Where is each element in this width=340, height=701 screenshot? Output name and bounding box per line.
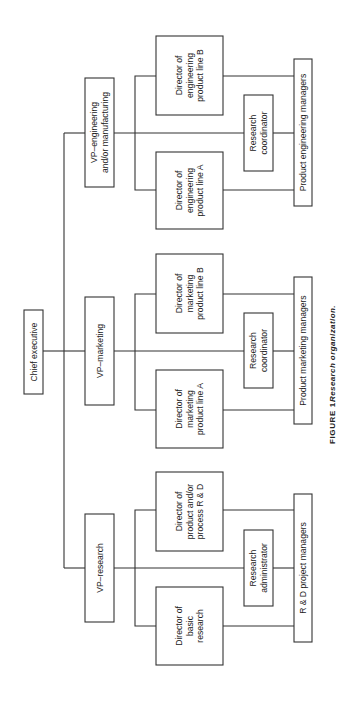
org-chart: Chief executive VP–engineeringand/or man… (0, 0, 340, 701)
managers-label-line: Product marketing managers (298, 295, 308, 405)
managers-box: Product marketing managers (294, 277, 312, 424)
vp-engineering-box: VP–engineeringand/or manufacturing (85, 78, 114, 187)
vp-marketing-box: VP–marketing (85, 297, 114, 405)
director-bottom-label-line: research (195, 609, 205, 643)
director-bottom-label-line: marketing (185, 390, 195, 428)
group-engineering: VP–engineeringand/or manufacturingDirect… (64, 36, 312, 229)
research-staff-box: Researchadministrator (244, 530, 273, 606)
director-bottom-label-line: basic (185, 615, 195, 636)
director-top-label-line: Director of (174, 273, 184, 313)
vp-research-box: VP–research (85, 514, 114, 622)
group-research: VP–researchDirector ofproduct and/orproc… (64, 472, 312, 665)
figure-title: Research organization. (328, 305, 337, 402)
research-staff-box: Researchcoordinator (244, 313, 273, 388)
director-top-box: Director ofproduct and/orprocess R & D (156, 472, 223, 551)
director-top-label-line: product line B (195, 49, 205, 102)
research-staff-label-line: coordinator (259, 111, 269, 154)
research-staff-label-line: Research (248, 332, 258, 369)
director-bottom-label-line: product line A (195, 383, 205, 435)
director-top-label-line: product and/or (185, 484, 195, 540)
director-top-label-line: Director of (174, 491, 184, 531)
managers-box: R & D project managers (294, 494, 312, 642)
group-marketing: VP–marketingDirector ofmarketingproduct … (64, 254, 312, 448)
vp-engineering-label-line: VP–engineering (89, 102, 99, 163)
vp-marketing-label-line: VP–marketing (95, 324, 105, 378)
vp-research-label-line: VP–research (95, 543, 105, 593)
director-bottom-label-line: engineering (185, 168, 195, 213)
director-bottom-box: Director ofmarketingproduct line A (156, 370, 223, 448)
research-staff-label-line: administrator (259, 543, 269, 593)
figure-label: FIGURE 1. (328, 399, 337, 444)
director-bottom-box: Director ofbasicresearch (156, 587, 223, 665)
chief-executive-label: Chief executive (29, 322, 39, 381)
director-bottom-label-line: Director of (174, 606, 184, 646)
director-top-box: Director ofmarketingproduct line B (156, 254, 223, 333)
director-top-label-line: Director of (174, 55, 184, 95)
managers-box: Product engineering managers (294, 59, 312, 206)
research-staff-label-line: coordinator (259, 329, 269, 372)
director-bottom-label-line: product line A (195, 164, 205, 216)
research-staff-box: Researchcoordinator (244, 95, 273, 171)
director-bottom-label-line: Director of (174, 170, 184, 210)
director-top-label-line: product line B (195, 267, 205, 320)
director-bracket (135, 294, 156, 410)
managers-label-line: R & D project managers (298, 522, 308, 614)
managers-label-line: Product engineering managers (298, 74, 308, 192)
research-staff-label-line: Research (248, 549, 258, 586)
director-top-label-line: marketing (185, 274, 195, 312)
director-bottom-box: Director ofengineeringproduct line A (156, 152, 223, 229)
chief-executive-box: Chief executive (24, 310, 43, 394)
research-staff-label-line: Research (248, 114, 258, 151)
director-top-box: Director ofengineeringproduct line B (156, 36, 223, 115)
figure-caption: FIGURE 1. Research organization. (328, 305, 337, 444)
director-top-label-line: process R & D (195, 484, 205, 539)
director-top-label-line: engineering (185, 53, 195, 98)
vp-engineering-label-line: and/or manufacturing (100, 92, 110, 173)
director-bottom-label-line: Director of (174, 389, 184, 429)
